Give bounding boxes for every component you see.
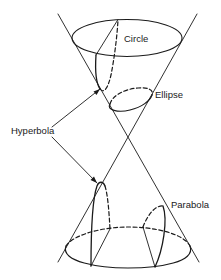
hyperbola-upper-branch-front	[96, 55, 100, 89]
hyperbola-label: Hyperbola	[11, 126, 54, 136]
arrowhead-upper	[94, 89, 101, 95]
base-ellipse-back	[66, 227, 190, 246]
ellipse-section-front	[109, 95, 152, 111]
hyperbola-pointer-upper	[52, 89, 100, 127]
conic-sections-diagram	[0, 0, 221, 280]
parabola-label: Parabola	[171, 200, 209, 210]
parabola-front	[155, 206, 165, 267]
hyperbola-plane-edge-lower	[91, 229, 110, 266]
circle-label: Circle	[124, 34, 148, 44]
parabola-back	[143, 206, 163, 227]
hyperbola-pointer-lower	[52, 137, 97, 183]
hyperbola-lower-branch-front	[91, 182, 105, 266]
ellipse-label: Ellipse	[155, 90, 183, 100]
ellipse-section-back	[110, 88, 152, 104]
parabola-plane-edge	[143, 227, 155, 267]
hyperbola-lower-branch-back	[105, 186, 110, 229]
base-ellipse-front	[65, 246, 190, 268]
